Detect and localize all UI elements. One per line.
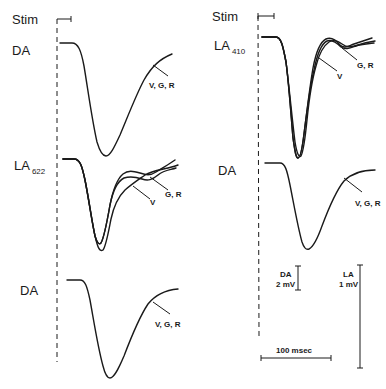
scale-time-label: 100 msec	[276, 346, 313, 355]
pointer-la410-gr	[342, 48, 357, 60]
right-panel: Stim LA410 G, R V DA V, G, R DA 2 mV LA	[212, 9, 381, 368]
trace-label-la410: LA410	[214, 38, 246, 56]
scale-bar-la: LA 1 mV	[339, 265, 363, 368]
scale-bar-time: 100 msec	[261, 346, 331, 361]
series-note-la410-gr: G, R	[357, 61, 374, 70]
trace-la410-g	[262, 37, 372, 158]
stim-onset-line-right	[258, 16, 259, 336]
series-note-la410-v: V	[337, 72, 343, 81]
series-note-la622-v: V	[150, 198, 156, 207]
scale-da-value: 2 mV	[276, 280, 296, 289]
scale-da-name: DA	[280, 270, 292, 279]
scale-bar-da: DA 2 mV	[276, 266, 301, 290]
stim-label-left: Stim	[12, 12, 38, 27]
stim-label-right: Stim	[212, 9, 238, 24]
trace-label-la622-main: LA	[14, 158, 30, 173]
pointer-da-1	[153, 65, 168, 76]
trace-label-la622-sub: 622	[32, 167, 46, 176]
series-note-la622-gr: G, R	[165, 190, 182, 199]
series-note-da-1: V, G, R	[149, 81, 175, 90]
series-note-da-right: V, G, R	[355, 199, 381, 208]
trace-da-3	[67, 280, 178, 378]
trace-da-1	[60, 43, 172, 156]
trace-la622-g	[63, 159, 175, 244]
trace-la410-r	[262, 37, 374, 158]
pointer-da-3	[153, 302, 170, 314]
left-panel: Stim DA V, G, R LA622 G, R V DA V, G, R	[12, 12, 182, 378]
scale-la-value: 1 mV	[339, 280, 359, 289]
trace-label-la622: LA622	[14, 158, 46, 176]
trace-label-da-3: DA	[20, 283, 38, 298]
pointer-la622-gr	[150, 177, 168, 190]
trace-label-la410-main: LA	[214, 38, 230, 53]
scale-la-name: LA	[343, 270, 354, 279]
series-note-da-3: V, G, R	[155, 320, 181, 329]
trace-la622-r	[63, 159, 176, 244]
pointer-la410-v	[319, 58, 337, 71]
figure: Stim DA V, G, R LA622 G, R V DA V, G, R …	[0, 0, 386, 389]
pointer-la622-v	[133, 186, 150, 199]
trace-label-da-1: DA	[12, 43, 30, 58]
trace-label-la410-sub: 410	[232, 47, 246, 56]
pointer-da-right	[344, 178, 362, 192]
trace-label-da-right: DA	[218, 163, 236, 178]
